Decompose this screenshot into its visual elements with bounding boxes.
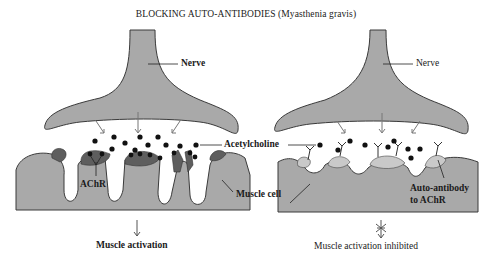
diagram-canvas (0, 0, 492, 266)
right-blocked-arrow (376, 220, 386, 238)
achr-label: AChR (80, 179, 106, 189)
antibody-label-line1: Auto-antibody (410, 183, 469, 193)
right-nerve-label: Nerve (416, 58, 439, 68)
acetylcholine-label: Acetylcholine (224, 139, 279, 149)
right-nerve-terminal (275, 30, 469, 134)
left-nerve-terminal (45, 30, 239, 133)
left-outcome-arrow (134, 220, 140, 236)
muscle-cell-label: Muscle cell (236, 189, 281, 199)
right-acetylcholine-molecules (317, 138, 422, 160)
left-nerve-label: Nerve (181, 58, 205, 68)
left-outcome-label: Muscle activation (96, 240, 168, 250)
right-outcome-label: Muscle activation inhibited (314, 241, 418, 251)
antibody-label-line2: to AChR (410, 195, 446, 205)
